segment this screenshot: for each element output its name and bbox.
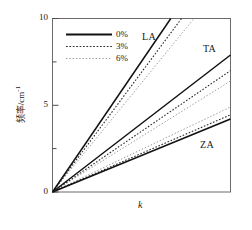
branch-label-za: ZA <box>200 140 214 150</box>
y-tick-label-0: 0 <box>30 187 48 196</box>
legend-label-0pct: 0% <box>116 30 128 39</box>
y-tick-label-5: 5 <box>30 100 48 109</box>
y-axis-title-text: 频率/cm <box>16 92 26 124</box>
y-axis-title: 频率/cm-1 <box>17 69 26 141</box>
y-tick-label-10: 10 <box>30 13 48 22</box>
y-axis-title-exponent: -1 <box>14 86 22 92</box>
legend-label-3pct: 3% <box>116 42 128 51</box>
branch-label-la: LA <box>142 32 156 42</box>
legend-label-6pct: 6% <box>116 54 128 63</box>
branch-label-ta: TA <box>203 44 216 54</box>
x-axis-title: k <box>138 200 142 210</box>
phonon-dispersion-figure: 10 5 0 频率/cm-1 k 0% 3% 6% LA TA ZA <box>0 0 252 230</box>
